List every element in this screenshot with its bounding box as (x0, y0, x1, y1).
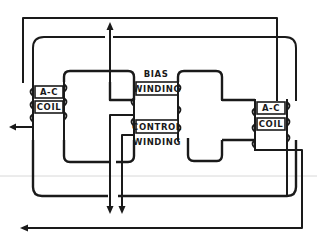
bottom-return-arrow-icon (20, 225, 28, 232)
core-outer-bottom (33, 140, 296, 196)
left-ac-label: A-C (40, 87, 58, 97)
magnetic-amplifier-diagram: A-C COIL BIAS WINDING CONTROL WINDING (0, 0, 317, 249)
bias-winding: BIAS WINDING (107, 22, 182, 106)
control-winding-label: WINDING (133, 137, 181, 147)
core-inner-bottom-right (188, 138, 222, 161)
right-ac-label: A-C (262, 103, 280, 113)
core-right-connectors (222, 100, 255, 140)
left-coil-label: COIL (37, 102, 61, 112)
right-coil-label: COIL (259, 119, 283, 129)
control-lead-down-arrow-1-icon (107, 206, 114, 214)
bias-label: BIAS (144, 69, 169, 79)
core-inner-bottom-left (64, 140, 134, 162)
left-output-arrow-icon (9, 124, 16, 131)
control-lead-down-arrow-2-icon (119, 206, 126, 214)
core-center-left-leg (110, 82, 134, 100)
left-ac-coil: A-C COIL (9, 82, 67, 140)
control-label: CONTROL (132, 122, 182, 132)
bias-lead-up-arrow-icon (107, 22, 114, 30)
bias-winding-label: WINDING (133, 84, 181, 94)
